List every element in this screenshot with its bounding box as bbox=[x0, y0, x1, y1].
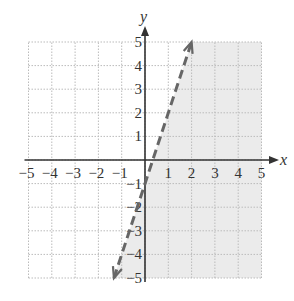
x-tick-label: 5 bbox=[258, 165, 266, 181]
y-axis-label: y bbox=[138, 8, 148, 26]
y-tick-label: 4 bbox=[135, 58, 143, 74]
y-axis-arrow-icon bbox=[141, 26, 149, 36]
y-tick-label: 3 bbox=[135, 81, 143, 97]
x-axis-arrow-icon bbox=[269, 156, 279, 164]
y-tick-label: 5 bbox=[135, 34, 143, 50]
coordinate-plane: −5−4−3−2−11234554321−1−2−3−4−5 x y bbox=[0, 0, 294, 301]
y-tick-label: −2 bbox=[126, 199, 142, 215]
y-tick-label: −1 bbox=[126, 176, 142, 192]
x-tick-label: −2 bbox=[88, 165, 104, 181]
x-tick-label: 2 bbox=[188, 165, 196, 181]
x-tick-label: 3 bbox=[211, 165, 219, 181]
x-axis-label: x bbox=[279, 151, 287, 168]
y-tick-label: 1 bbox=[135, 128, 143, 144]
y-tick-label: −5 bbox=[126, 270, 142, 286]
x-tick-label: 1 bbox=[165, 165, 173, 181]
x-tick-label: −4 bbox=[42, 165, 58, 181]
y-tick-label: 2 bbox=[135, 105, 143, 121]
y-tick-label: −4 bbox=[126, 246, 142, 262]
x-tick-label: −5 bbox=[19, 165, 35, 181]
x-tick-label: −3 bbox=[65, 165, 81, 181]
x-tick-label: 4 bbox=[234, 165, 242, 181]
